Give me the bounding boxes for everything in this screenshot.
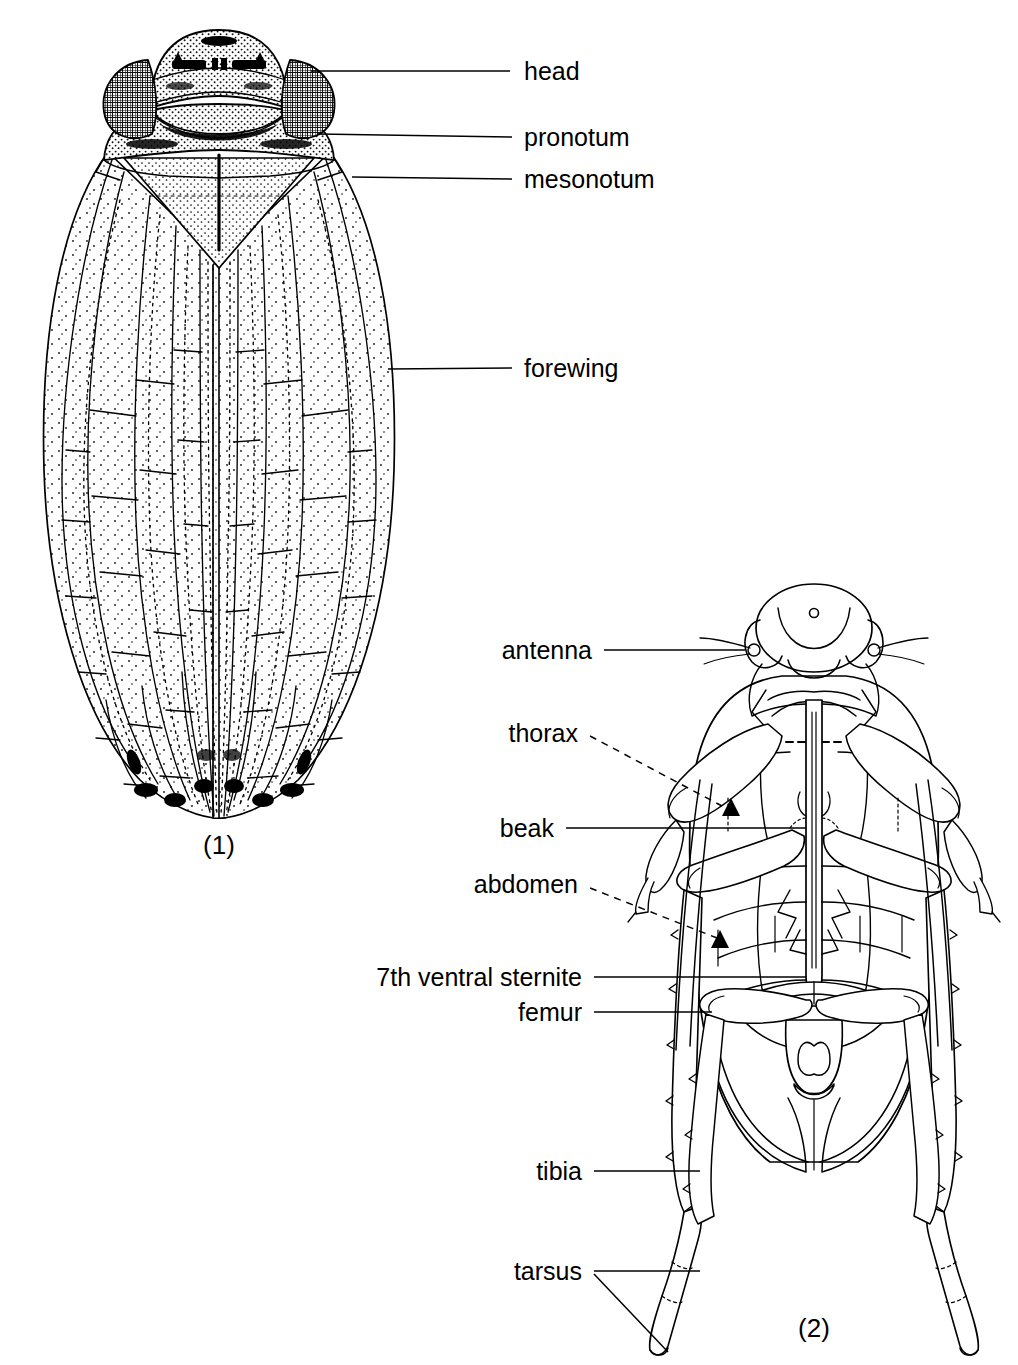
figure-2-number: (2) — [798, 1313, 830, 1344]
label-antenna: antenna — [502, 638, 592, 663]
label-forewing: forewing — [524, 356, 619, 381]
label-tarsus: tarsus — [514, 1259, 582, 1284]
genital-capsule — [786, 1020, 843, 1099]
label-head: head — [524, 59, 580, 84]
label-pronotum: pronotum — [524, 125, 630, 150]
label-mesonotum: mesonotum — [524, 167, 655, 192]
label-beak: beak — [500, 816, 554, 841]
illustration-plate — [0, 0, 1018, 1365]
label-abdomen: abdomen — [474, 872, 578, 897]
label-femur: femur — [518, 1000, 582, 1025]
label-tibia: tibia — [536, 1159, 582, 1184]
leader-line-forewing — [388, 368, 512, 369]
figure-1-number: (1) — [203, 830, 235, 861]
label-7th-ventral-sternite: 7th ventral sternite — [376, 965, 582, 990]
label-thorax: thorax — [509, 721, 578, 746]
